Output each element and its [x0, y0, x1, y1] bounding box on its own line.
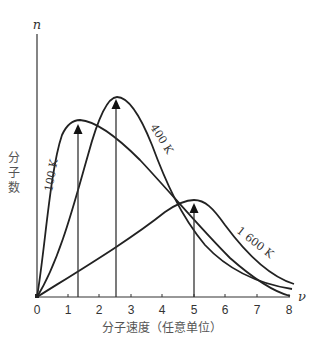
x-tick-label: 6: [222, 303, 229, 317]
x-tick-label: 2: [96, 303, 103, 317]
x-tick-label: 7: [254, 303, 261, 317]
x-tick-label: 0: [34, 303, 41, 317]
y-axis-title-char: 分: [8, 151, 20, 165]
arrow-up-icon: [74, 124, 83, 134]
curve-400k: [37, 97, 292, 297]
x-tick-label: 1: [65, 303, 72, 317]
chart-canvas: 0 1 2 3 4 5 6 7 8 n ν 分 子 数 分子速度（任意单位） 1…: [0, 0, 325, 351]
x-tick-label: 8: [286, 303, 293, 317]
arrow-up-icon: [112, 99, 121, 109]
curve-label-400k: 400 K: [147, 122, 176, 157]
curve-label-100k: 100 K: [42, 157, 61, 192]
y-axis-title-char: 数: [8, 180, 20, 195]
x-tick-label: 3: [128, 303, 135, 317]
x-tick-label: 4: [159, 303, 166, 317]
curve-label-1600k: 1 600 K: [234, 224, 277, 261]
peak-arrows: [74, 99, 199, 297]
x-tick-label: 5: [191, 303, 198, 317]
x-axis-title: 分子速度（任意单位）: [102, 320, 222, 335]
arrow-up-icon: [190, 203, 199, 213]
y-axis-symbol: n: [33, 17, 41, 32]
y-axis-title-char: 子: [8, 166, 20, 180]
x-axis-symbol: ν: [298, 289, 306, 304]
